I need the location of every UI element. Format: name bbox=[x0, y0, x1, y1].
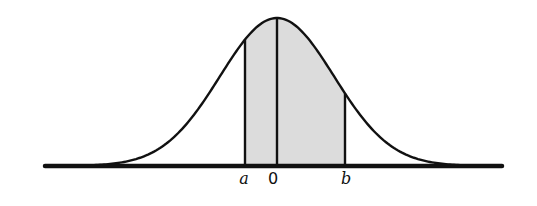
label-b: b bbox=[341, 171, 351, 187]
label-zero: 0 bbox=[268, 171, 278, 187]
label-a: a bbox=[239, 171, 249, 187]
shaded-area-a-to-b bbox=[245, 18, 345, 166]
